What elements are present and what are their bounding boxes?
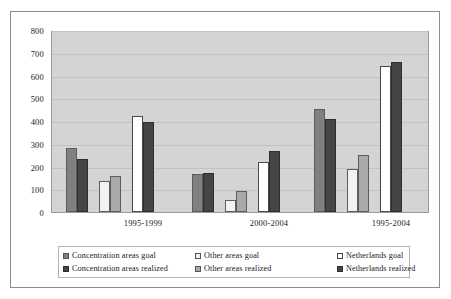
bar[interactable]: [225, 200, 236, 212]
bar[interactable]: [99, 181, 110, 213]
x-axis-tick-label: 1995-1999: [124, 218, 163, 228]
bar[interactable]: [258, 162, 269, 212]
x-axis: 1995-19992000-20041995-2004: [51, 218, 429, 234]
legend-label: Netherlands goal: [346, 251, 403, 260]
bar[interactable]: [347, 169, 358, 212]
bar[interactable]: [143, 122, 154, 212]
y-axis-tick-label: 400: [31, 117, 44, 127]
legend-label: Other areas goal: [204, 251, 259, 260]
y-axis-tick-label: 500: [31, 94, 44, 104]
bars-layer: [52, 32, 428, 212]
legend-swatch-icon: [63, 266, 69, 272]
bar[interactable]: [77, 159, 88, 212]
bar[interactable]: [325, 119, 336, 212]
bar[interactable]: [314, 109, 325, 212]
y-axis-tick-label: 700: [31, 49, 44, 59]
y-axis-tick-label: 300: [31, 140, 44, 150]
legend-swatch-icon: [63, 253, 69, 259]
bar[interactable]: [66, 148, 77, 212]
legend-swatch-icon: [337, 266, 343, 272]
legend-item[interactable]: Netherlands goal: [337, 251, 415, 260]
bar[interactable]: [192, 174, 203, 212]
legend-item[interactable]: Concentration areas goal: [63, 251, 195, 260]
legend-label: Concentration areas realized: [72, 264, 168, 273]
bar[interactable]: [391, 62, 402, 212]
x-axis-tick-label: 2000-2004: [250, 218, 289, 228]
legend-swatch-icon: [195, 266, 201, 272]
bar-group: [66, 32, 154, 212]
legend-item[interactable]: Concentration areas realized: [63, 264, 195, 273]
y-axis-tick-label: 200: [31, 163, 44, 173]
legend-item[interactable]: Other areas realized: [195, 264, 337, 273]
legend-swatch-icon: [195, 253, 201, 259]
y-axis: 8007006005004003002001000: [11, 31, 49, 213]
legend-item[interactable]: Netherlands realized: [337, 264, 415, 273]
bar[interactable]: [236, 191, 247, 212]
bar[interactable]: [132, 116, 143, 212]
y-axis-tick-label: 600: [31, 72, 44, 82]
bar[interactable]: [269, 151, 280, 212]
bar[interactable]: [380, 66, 391, 212]
legend-label: Netherlands realized: [346, 264, 416, 273]
chart-legend: Concentration areas goalOther areas goal…: [58, 246, 410, 278]
x-axis-tick-label: 1995-2004: [372, 218, 411, 228]
legend-label: Concentration areas goal: [72, 251, 156, 260]
y-axis-tick-label: 800: [31, 26, 44, 36]
bar[interactable]: [203, 173, 214, 212]
bar-group: [192, 32, 280, 212]
legend-label: Other areas realized: [204, 264, 271, 273]
bar-group: [314, 32, 402, 212]
bar[interactable]: [358, 155, 369, 212]
legend-item[interactable]: Other areas goal: [195, 251, 337, 260]
chart-figure: 8007006005004003002001000 1995-19992000-…: [10, 11, 440, 288]
y-axis-tick-label: 0: [40, 208, 44, 218]
y-axis-tick-label: 100: [31, 185, 44, 195]
bar[interactable]: [110, 176, 121, 212]
legend-swatch-icon: [337, 253, 343, 259]
